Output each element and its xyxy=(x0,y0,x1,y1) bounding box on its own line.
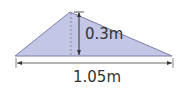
height-arrow-up-icon xyxy=(77,12,81,17)
triangle-diagram: 0.3m 1.05m xyxy=(0,0,178,88)
base-arrow-left-icon xyxy=(17,61,22,65)
base-arrow-right-icon xyxy=(167,61,172,65)
height-label: 0.3m xyxy=(85,25,123,43)
base-label: 1.05m xyxy=(73,68,121,86)
